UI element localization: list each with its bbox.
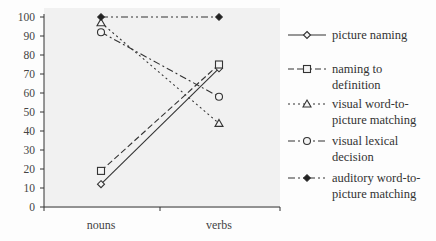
legend-label: visual lexical bbox=[332, 134, 399, 148]
x-category-label: nouns bbox=[87, 218, 116, 232]
y-tick-label: 70 bbox=[24, 68, 36, 80]
y-tick-label: 30 bbox=[24, 144, 36, 156]
legend-item: picture naming bbox=[288, 28, 408, 42]
y-tick-label: 0 bbox=[29, 201, 35, 213]
y-tick-label: 90 bbox=[24, 30, 36, 42]
y-tick-label: 60 bbox=[24, 87, 36, 99]
y-tick-label: 10 bbox=[24, 182, 36, 194]
legend-label: picture matching bbox=[332, 113, 417, 127]
legend-item: auditory word-to-picture matching bbox=[288, 171, 421, 201]
legend-item: visual lexicaldecision bbox=[288, 134, 399, 164]
legend-label: decision bbox=[332, 150, 374, 164]
x-category-label: verbs bbox=[206, 218, 232, 232]
legend-label: auditory word-to- bbox=[332, 171, 421, 185]
y-tick-label: 80 bbox=[24, 49, 36, 61]
legend: picture namingnaming todefinitionvisual … bbox=[288, 28, 421, 201]
legend-label: picture naming bbox=[332, 28, 408, 42]
plot-area bbox=[44, 8, 280, 208]
legend-item: naming todefinition bbox=[288, 62, 382, 92]
y-tick-label: 50 bbox=[24, 106, 36, 118]
legend-label: definition bbox=[332, 78, 381, 92]
y-tick-label: 100 bbox=[18, 11, 36, 23]
legend-label: visual word-to- bbox=[332, 97, 409, 111]
y-tick-label: 20 bbox=[24, 163, 36, 175]
legend-label: picture matching bbox=[332, 187, 417, 201]
legend-item: visual word-to-picture matching bbox=[288, 97, 417, 127]
chart-svg: 0102030405060708090100nounsverbs picture… bbox=[0, 0, 436, 241]
y-tick-label: 40 bbox=[24, 125, 36, 137]
legend-label: naming to bbox=[332, 62, 382, 76]
